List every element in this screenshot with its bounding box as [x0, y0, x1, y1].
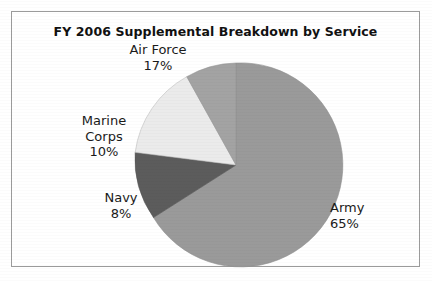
pie-label-army-name: Army: [330, 200, 412, 216]
pie-label-army: Army 65%: [330, 200, 412, 231]
pie-label-air-force: Air Force 17%: [92, 42, 224, 73]
pie-label-air-force-value: 17%: [92, 58, 224, 74]
pie-label-army-value: 65%: [330, 216, 412, 232]
pie-label-navy-value: 8%: [78, 206, 164, 222]
pie-label-marine-corps: Marine Corps 10%: [58, 113, 150, 160]
pie-label-marine-corps-name-line1: Marine: [58, 113, 150, 129]
pie-label-navy: Navy 8%: [78, 190, 164, 221]
pie-label-navy-name: Navy: [78, 190, 164, 206]
pie-label-marine-corps-value: 10%: [58, 144, 150, 160]
pie-label-air-force-name: Air Force: [92, 42, 224, 58]
pie-label-marine-corps-name-line2: Corps: [58, 129, 150, 145]
